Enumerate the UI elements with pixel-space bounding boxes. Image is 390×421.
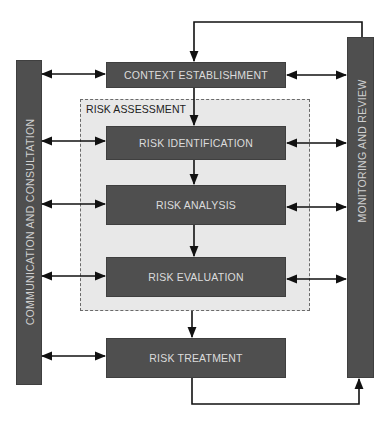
treatment-to-monitoring-arrow [192,378,359,404]
connectors-layer [0,0,390,421]
monitoring-to-context-arrow [194,22,362,61]
